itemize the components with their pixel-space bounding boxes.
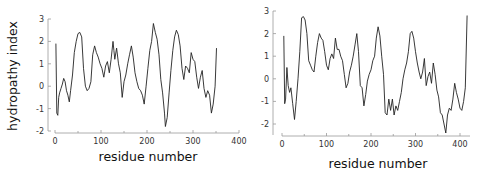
y-tick-label: 2 [264, 30, 269, 39]
x-tick-label: 100 [93, 137, 108, 146]
left-y-ticks: -2-10123 [36, 15, 51, 136]
x-tick-label: 300 [408, 140, 423, 149]
x-tick-label: 0 [279, 140, 284, 149]
x-tick-label: 100 [319, 140, 334, 149]
y-tick-label: 0 [39, 82, 44, 91]
x-tick-label: 400 [452, 140, 467, 149]
x-tick-label: 0 [52, 137, 57, 146]
left-hydropathy-curve [56, 24, 217, 127]
left-x-ticks: 0100200300400 [52, 130, 246, 146]
x-tick-label: 200 [139, 137, 154, 146]
right-x-ticks: 0100200300400 [279, 133, 467, 149]
left-y-axis-title: hydropathy index [5, 21, 20, 131]
x-tick-label: 200 [363, 140, 378, 149]
right-chart: -2-10123 0100200300400 residue number [261, 7, 470, 171]
right-x-axis-title: residue number [329, 156, 429, 171]
x-tick-label: 300 [185, 137, 200, 146]
hydropathy-figure: -2-10123 0100200300400 hydropathy index … [0, 0, 479, 175]
left-x-axis-title: residue number [99, 149, 199, 164]
y-tick-label: 0 [264, 75, 269, 84]
y-tick-label: 1 [264, 52, 269, 61]
x-tick-label: 400 [231, 137, 246, 146]
y-tick-label: -2 [261, 120, 269, 129]
y-tick-label: -2 [36, 127, 44, 136]
y-tick-label: 3 [264, 7, 269, 16]
y-tick-label: 1 [39, 60, 44, 69]
left-chart: -2-10123 0100200300400 hydropathy index … [5, 15, 247, 164]
y-tick-label: 2 [39, 37, 44, 46]
y-tick-label: 3 [39, 15, 44, 24]
right-y-ticks: -2-10123 [261, 7, 276, 129]
y-tick-label: -1 [36, 105, 44, 114]
y-tick-label: -1 [261, 97, 269, 106]
right-hydropathy-curve [284, 16, 467, 134]
